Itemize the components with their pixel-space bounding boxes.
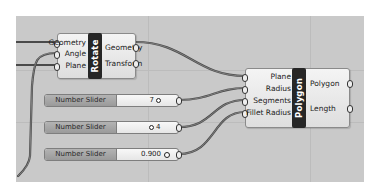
wire-rotate-to-plane (135, 42, 245, 76)
input-label-plane: Plane (65, 61, 86, 71)
input-port-segments[interactable] (242, 98, 248, 106)
number-slider-segments[interactable]: Number Slider 4 (44, 121, 179, 134)
output-port-length[interactable] (347, 105, 353, 113)
number-slider-segments-radius[interactable]: Number Slider 7 (44, 94, 179, 107)
output-label-polygon: Polygon (310, 79, 339, 89)
input-label-angle: Angle (65, 49, 86, 59)
polygon-component[interactable]: Plane Radius Segments Fillet Radius Poly… (245, 68, 350, 128)
input-label-plane: Plane (270, 72, 291, 82)
slider-value: 4 (156, 122, 160, 133)
input-port-plane[interactable] (242, 74, 248, 82)
wire-slider3-fillet (179, 112, 245, 154)
rotate-title: Rotate (90, 39, 100, 72)
wire-slider1-radius (179, 88, 245, 100)
input-label-radius: Radius (266, 84, 291, 94)
input-port-angle[interactable] (54, 51, 60, 59)
output-label-length: Length (310, 104, 336, 114)
rotate-component[interactable]: Geometry Angle Plane Rotate Geometry Tra… (57, 33, 136, 79)
slider-label: Number Slider (45, 95, 117, 106)
input-label-fillet-radius: Fillet Radius (246, 108, 291, 118)
output-port-geometry[interactable] (133, 44, 139, 52)
input-label-segments: Segments (253, 96, 291, 106)
slider-value: 0.900 (141, 149, 161, 160)
slider-label: Number Slider (45, 149, 117, 160)
grasshopper-canvas[interactable]: Geometry Angle Plane Rotate Geometry Tra… (16, 16, 364, 182)
polygon-title: Polygon (294, 78, 304, 118)
output-port-transform[interactable] (133, 60, 139, 68)
output-port[interactable] (176, 97, 182, 105)
output-port[interactable] (176, 151, 182, 159)
input-label-geometry: Geometry (49, 38, 86, 48)
polygon-title-strip[interactable]: Polygon (292, 68, 306, 128)
slider-grip[interactable] (156, 98, 161, 103)
rotate-title-strip[interactable]: Rotate (88, 33, 102, 79)
input-port-radius[interactable] (242, 86, 248, 94)
slider-grip[interactable] (149, 125, 154, 130)
slider-value: 7 (150, 95, 154, 106)
slider-label: Number Slider (45, 122, 117, 133)
slider-grip[interactable] (164, 152, 170, 158)
input-port-plane[interactable] (54, 63, 60, 71)
output-port-polygon[interactable] (347, 80, 353, 88)
output-port[interactable] (176, 124, 182, 132)
number-slider-fillet-radius[interactable]: Number Slider 0.900 (44, 148, 179, 161)
